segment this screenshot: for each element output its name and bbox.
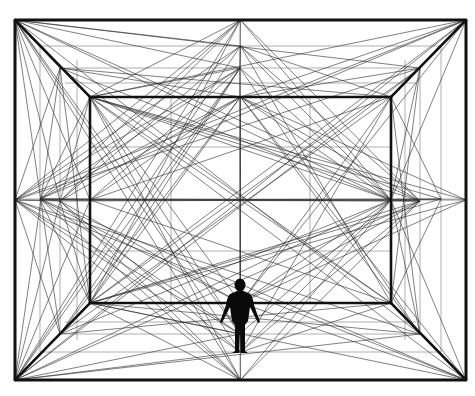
construction-line bbox=[15, 68, 60, 200]
construction-line bbox=[15, 68, 240, 380]
construction-line bbox=[90, 97, 441, 199]
construction-line bbox=[15, 200, 60, 334]
construction-line bbox=[241, 68, 421, 97]
construction-line bbox=[15, 20, 60, 334]
figure-head bbox=[235, 279, 246, 292]
construction-line bbox=[15, 201, 60, 380]
construction-line bbox=[15, 20, 420, 334]
construction-line bbox=[15, 20, 240, 68]
construction-line bbox=[90, 303, 241, 380]
construction-line bbox=[90, 97, 241, 380]
construction-line bbox=[241, 20, 467, 97]
construction-line bbox=[60, 201, 241, 303]
construction-line bbox=[15, 20, 241, 46]
construction-line bbox=[241, 201, 421, 352]
perspective-diagram bbox=[0, 0, 475, 396]
construction-line bbox=[15, 200, 90, 380]
construction-line bbox=[391, 199, 441, 303]
construction-line bbox=[15, 20, 60, 201]
construction-line bbox=[241, 46, 392, 200]
construction-line bbox=[15, 352, 241, 380]
construction-line bbox=[90, 97, 240, 334]
construction-line bbox=[241, 20, 421, 201]
construction-line bbox=[15, 68, 60, 380]
corner-edge-tr bbox=[391, 20, 466, 97]
construction-line bbox=[240, 200, 391, 334]
construction-line bbox=[241, 46, 421, 201]
construction-line bbox=[241, 303, 467, 380]
corner-edge-tl bbox=[15, 20, 90, 97]
construction-line bbox=[60, 46, 241, 201]
construction-line bbox=[240, 46, 241, 68]
construction-line bbox=[15, 334, 240, 380]
construction-line bbox=[90, 97, 466, 380]
corner-edge-bl bbox=[15, 303, 90, 380]
construction-line bbox=[90, 97, 466, 200]
construction-line bbox=[40, 20, 466, 199]
construction-line bbox=[391, 97, 441, 199]
construction-line bbox=[15, 20, 420, 201]
construction-line bbox=[60, 201, 241, 352]
construction-line bbox=[60, 97, 241, 201]
construction-line bbox=[60, 201, 241, 380]
corner-edge-br bbox=[391, 303, 466, 380]
construction-line bbox=[60, 97, 391, 334]
